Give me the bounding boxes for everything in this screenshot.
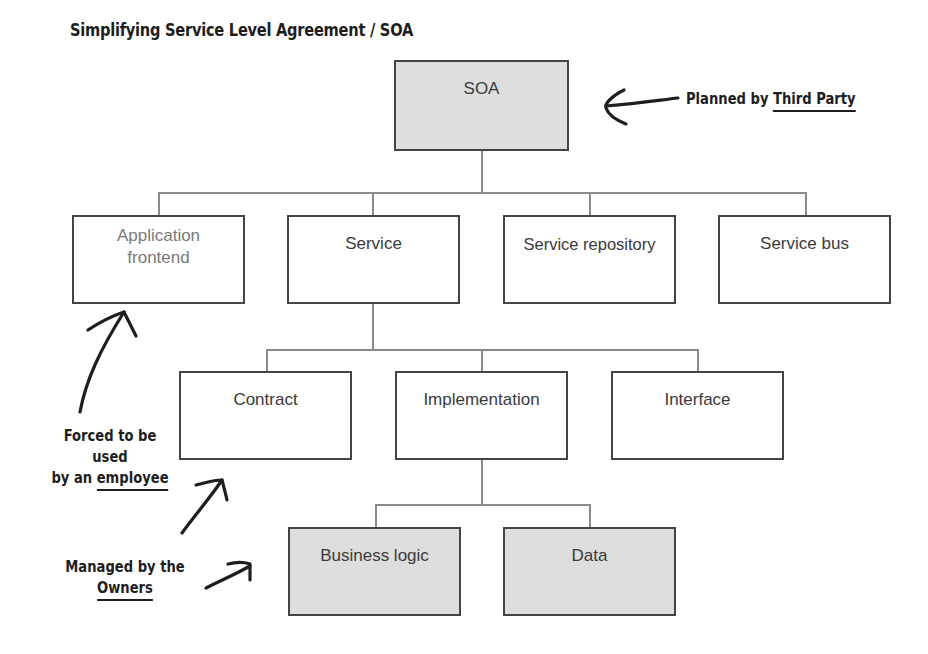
arrow-right-icon	[206, 566, 250, 588]
annotation-arrows	[0, 0, 928, 654]
arrow-up-right-icon	[182, 480, 222, 533]
arrow-left-icon	[606, 98, 678, 106]
arrow-up-icon	[80, 312, 124, 412]
